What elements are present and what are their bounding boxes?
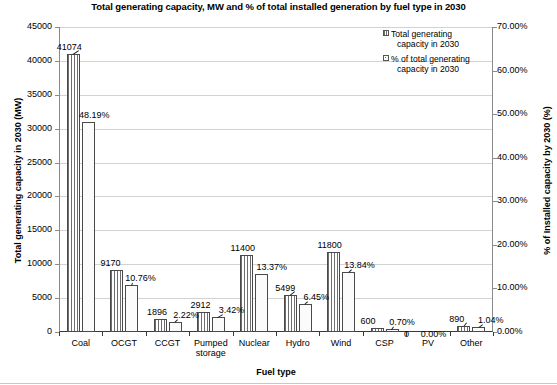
data-label-series1: 2912	[183, 301, 217, 310]
x-axis-tick-mark	[146, 332, 147, 336]
y-axis-left-title: Total generating capacity in 2030 (MW)	[13, 71, 24, 291]
legend-label-series1-line2: capacity in 2030	[391, 39, 459, 49]
y-axis-left-tick-mark	[55, 298, 59, 299]
x-axis-tick-mark	[59, 332, 60, 336]
data-label-series2: 0.00%	[416, 330, 450, 339]
y-axis-right-tick-label: 0.00%	[497, 327, 545, 336]
data-label-series2: 48.19%	[77, 111, 111, 120]
gridline	[60, 196, 492, 197]
x-axis-tick-mark	[102, 332, 103, 336]
x-axis-label: Other	[450, 338, 493, 348]
x-axis-tick-mark	[233, 332, 234, 336]
x-axis-label: Wind	[319, 338, 362, 348]
y-axis-right-tick-label: 10.00%	[497, 283, 545, 292]
y-axis-right-tick-mark	[493, 158, 497, 159]
y-axis-right-tick-label: 50.00%	[497, 109, 545, 118]
bar-series1-hydro	[284, 295, 297, 332]
bar-series2-ocgt	[125, 285, 138, 332]
data-label-series2: 1.04%	[474, 316, 508, 325]
x-axis-tick-mark	[493, 332, 494, 336]
chart-legend: Total generating capacity in 2030 % of t…	[383, 29, 489, 79]
y-axis-left-tick-label: 40000	[0, 56, 52, 65]
x-axis-tick-mark	[276, 332, 277, 336]
y-axis-left-tick-label: 30000	[0, 124, 52, 133]
x-axis-title: Fuel type	[59, 367, 493, 377]
legend-item-total-capacity: Total generating capacity in 2030	[383, 29, 489, 49]
x-axis-label: Hydro	[276, 338, 319, 348]
bottom-divider	[0, 383, 557, 384]
y-axis-right-tick-label: 40.00%	[497, 153, 545, 162]
y-axis-left-tick-mark	[55, 196, 59, 197]
data-label-series1: 41074	[52, 43, 86, 52]
bar-series1-coal	[67, 54, 80, 332]
legend-label-series1: Total generating capacity in 2030	[391, 29, 459, 49]
y-axis-left-tick-label: 0	[0, 327, 52, 336]
legend-item-percent-capacity: % of total generating capacity in 2030	[383, 54, 489, 74]
legend-swatch-icon-series2	[383, 55, 389, 61]
data-label-series2: 6.45%	[299, 293, 333, 302]
legend-label-series2-line2: capacity in 2030	[391, 64, 470, 74]
data-label-series2: 2.22%	[169, 311, 203, 320]
y-axis-left-tick-label: 5000	[0, 293, 52, 302]
legend-swatch-icon-series1	[383, 30, 389, 36]
y-axis-right-tick-label: 60.00%	[497, 66, 545, 75]
y-axis-left-tick-mark	[55, 163, 59, 164]
y-axis-right-tick-mark	[493, 288, 497, 289]
y-axis-right-tick-mark	[493, 27, 497, 28]
bar-series2-coal	[82, 122, 95, 332]
data-label-series1: 9170	[94, 259, 128, 268]
bar-series1-csp	[371, 328, 384, 332]
y-axis-left-tick-label: 10000	[0, 259, 52, 268]
y-axis-left-tick-label: 25000	[0, 158, 52, 167]
x-axis-label: CCGT	[146, 338, 189, 348]
data-label-series2: 13.84%	[343, 261, 377, 270]
data-label-series1: 11400	[226, 244, 260, 253]
y-axis-left-tick-mark	[55, 61, 59, 62]
x-axis-tick-mark	[319, 332, 320, 336]
y-axis-left-tick-mark	[55, 95, 59, 96]
bar-series2-ccgt	[169, 322, 182, 332]
bar-series2-hydro	[299, 304, 312, 332]
bar-series1-ccgt	[154, 319, 167, 332]
y-axis-left-tick-label: 45000	[0, 22, 52, 31]
y-axis-left-tick-mark	[55, 264, 59, 265]
y-axis-right-title: % of Installed capacity by 2030 (%)	[542, 71, 553, 291]
y-axis-left-tick-mark	[55, 230, 59, 231]
bar-series2-pumped-storage	[212, 317, 225, 332]
data-label-series1: 890	[440, 315, 474, 324]
chart-title: Total generating capacity, MW and % of t…	[0, 1, 557, 13]
legend-label-series2: % of total generating capacity in 2030	[391, 54, 470, 74]
data-label-series1: 11800	[313, 241, 347, 250]
data-label-series1: 600	[351, 317, 385, 326]
y-axis-left-tick-label: 20000	[0, 191, 52, 200]
x-axis-label: Nuclear	[233, 338, 276, 348]
x-axis-tick-mark	[363, 332, 364, 336]
bar-series1-nuclear	[240, 255, 253, 332]
y-axis-left-tick-mark	[55, 129, 59, 130]
chart-container: Total generating capacity, MW and % of t…	[0, 0, 557, 385]
y-axis-right-tick-mark	[493, 71, 497, 72]
gridline	[60, 230, 492, 231]
x-axis-label: PV	[406, 338, 449, 348]
data-label-series2: 3.42%	[214, 306, 248, 315]
x-axis-label: Coal	[59, 338, 102, 348]
x-axis-tick-mark	[189, 332, 190, 336]
bar-series1-ocgt	[110, 270, 123, 332]
y-axis-right-tick-label: 70.00%	[497, 22, 545, 31]
y-axis-right-tick-label: 30.00%	[497, 196, 545, 205]
y-axis-left-tick-label: 35000	[0, 90, 52, 99]
legend-label-series2-line1: % of total generating	[391, 54, 470, 64]
x-axis-label: CSP	[363, 338, 406, 348]
x-axis-label: OCGT	[102, 338, 145, 348]
y-axis-right-tick-mark	[493, 114, 497, 115]
y-axis-right-tick-label: 20.00%	[497, 240, 545, 249]
data-label-series2: 0.70%	[385, 318, 419, 327]
gridline	[60, 163, 492, 164]
y-axis-right-tick-mark	[493, 201, 497, 202]
y-axis-left-tick-mark	[55, 27, 59, 28]
y-axis-left-tick-label: 15000	[0, 225, 52, 234]
data-label-series1: 5499	[268, 284, 302, 293]
gridline	[60, 27, 492, 28]
bar-series2-nuclear	[255, 274, 268, 332]
legend-label-series1-line1: Total generating	[391, 29, 452, 39]
